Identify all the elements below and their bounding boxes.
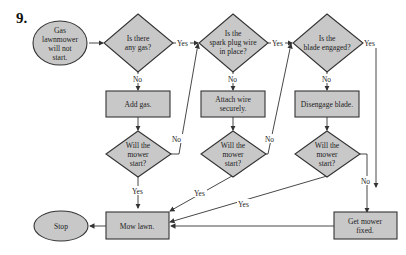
process-get-mower-fixed: Get mower fixed. (334, 212, 397, 239)
svg-text:Is the: Is the (225, 29, 242, 38)
svg-text:lawnmower: lawnmower (42, 35, 78, 44)
edge-label-plug-yes: Yes (272, 39, 283, 48)
edge-labels: Yes Yes Yes No No No No No No Yes Yes Ye… (131, 38, 377, 209)
svg-text:any gas?: any gas? (125, 43, 152, 52)
flowchart: Yes Yes Yes No No No No No No Yes Yes Ye… (0, 0, 406, 255)
start-terminal: Gas lawnmower will not start. (33, 21, 87, 65)
svg-text:mower: mower (222, 150, 244, 159)
decision-blade: Is the blade engaged? (293, 14, 363, 72)
svg-text:blade engaged?: blade engaged? (303, 43, 351, 52)
svg-text:mower: mower (316, 150, 338, 159)
process-attach-wire: Attach wire securely. (201, 91, 265, 117)
svg-text:Gas: Gas (54, 26, 66, 35)
svg-text:will not: will not (48, 44, 72, 53)
svg-text:spark plug wire: spark plug wire (209, 38, 257, 47)
edge-label-blade-yes: Yes (364, 39, 375, 48)
svg-text:Stop: Stop (54, 222, 68, 231)
edge-label-start3-no: No (361, 177, 370, 186)
edge-label-gas-yes: Yes (177, 39, 188, 48)
process-mow-lawn: Mow lawn. (106, 212, 169, 239)
edge-label-start1-yes: Yes (132, 187, 143, 196)
edge-label-start2-no: No (265, 135, 274, 144)
svg-text:mower: mower (127, 150, 149, 159)
edge-label-plug-no: No (228, 75, 237, 84)
process-disengage-blade: Disengage blade. (295, 91, 359, 117)
svg-text:Disengage blade.: Disengage blade. (301, 100, 353, 109)
decision-will-start-3: Will the mower start? (295, 131, 360, 177)
svg-text:Mow lawn.: Mow lawn. (120, 222, 155, 231)
svg-text:start.: start. (53, 53, 68, 62)
svg-text:fixed.: fixed. (356, 226, 374, 235)
edge-label-start3-yes: Yes (238, 200, 249, 209)
svg-text:Add gas.: Add gas. (125, 100, 152, 109)
svg-text:Will the: Will the (315, 141, 340, 150)
svg-text:start?: start? (130, 159, 147, 168)
edge-label-blade-no: No (322, 75, 331, 84)
terminal-stop: Stop (34, 211, 88, 241)
svg-text:Attach wire: Attach wire (215, 95, 251, 104)
edge-label-start2-yes: Yes (194, 189, 205, 198)
svg-text:start?: start? (225, 159, 242, 168)
process-add-gas: Add gas. (106, 91, 170, 117)
svg-text:Is the: Is the (319, 34, 336, 43)
decision-will-start-2: Will the mower start? (201, 131, 266, 177)
svg-text:start?: start? (319, 159, 336, 168)
edge-label-start1-no: No (172, 135, 181, 144)
svg-text:Is there: Is there (127, 34, 150, 43)
svg-text:in place?: in place? (219, 47, 247, 56)
svg-text:Will the: Will the (221, 141, 246, 150)
svg-text:Get mower: Get mower (348, 217, 382, 226)
edge-label-gas-no: No (133, 75, 142, 84)
decision-will-start-1: Will the mower start? (106, 131, 171, 177)
decision-gas: Is there any gas? (104, 14, 173, 72)
svg-text:securely.: securely. (220, 104, 247, 113)
svg-text:Will the: Will the (126, 141, 151, 150)
decision-spark-plug: Is the spark plug wire in place? (199, 14, 268, 72)
